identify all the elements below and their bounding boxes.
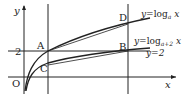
y-axis-label: y: [13, 5, 20, 16]
x-axis-arrow-icon: [171, 75, 176, 79]
point-c-label: C: [40, 63, 48, 74]
point-a-label: A: [36, 40, 45, 51]
curve-log-a-plus-2-label: y=loga+2 x: [133, 36, 181, 47]
point-d-label: D: [119, 12, 127, 23]
segment-cb: [48, 51, 128, 65]
x-axis-label: x: [165, 79, 171, 90]
log-graph-diagram: y x O 2 A B C D y=loga x y=loga+2 x y=2: [0, 0, 187, 98]
line-y-2-label: y=2: [145, 48, 165, 58]
y-axis-arrow-icon: [22, 5, 26, 10]
y-tick-2: 2: [15, 46, 21, 57]
point-b-label: B: [119, 41, 126, 52]
segment-ad: [48, 24, 128, 51]
origin-label: O: [12, 78, 20, 89]
curve-log-a-label: y=loga x: [140, 9, 179, 20]
